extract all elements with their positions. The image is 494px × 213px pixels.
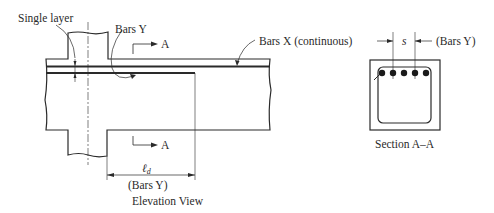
slab-outline (45, 32, 271, 157)
ld-note: (Bars Y) (128, 179, 168, 192)
section-mark-bottom-label: A (161, 139, 170, 151)
bars-x-leader-arrow (235, 60, 240, 66)
bars-x-leader (237, 40, 255, 64)
single-layer-arrow-down (74, 61, 77, 66)
spacing-arrow-left (387, 39, 393, 43)
spacing-label: s (402, 35, 407, 47)
bars-x-label: Bars X (continuous) (259, 35, 352, 48)
section-mark-bottom-arrow (151, 143, 158, 148)
bars-y-label: Bars Y (115, 23, 148, 35)
dimension-arrow-left (107, 173, 114, 177)
elevation-view (45, 22, 271, 180)
spacing-arrow-right (415, 39, 421, 43)
section-bars (379, 70, 429, 76)
section-mark-top (133, 44, 152, 54)
section-caption: Section A–A (375, 138, 435, 150)
section-mark-top-arrow (151, 42, 158, 47)
bar-y-dot (423, 70, 429, 76)
dimension-arrow-right (188, 173, 195, 177)
bars-y-leader (111, 30, 134, 78)
ld-symbol: ℓd (142, 162, 152, 176)
elevation-view-caption: Elevation View (132, 195, 204, 207)
single-layer-label: Single layer (18, 12, 73, 25)
section-mark-bottom (133, 136, 152, 145)
section-bars-y-label: (Bars Y) (436, 35, 476, 48)
bar-y-dot (412, 70, 418, 76)
single-layer-leader (56, 25, 75, 58)
bar-y-dot (379, 70, 385, 76)
diagram-canvas: Single layer Bars Y Bars X (continuous) … (0, 0, 494, 213)
section-mark-top-label: A (161, 38, 170, 50)
bar-y-dot (390, 70, 396, 76)
bars-y-leader-arrow (130, 74, 136, 79)
bar-y-dot (401, 70, 407, 76)
